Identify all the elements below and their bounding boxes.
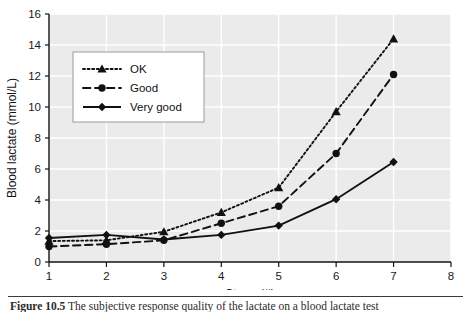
x-axis-tick-label: 5	[276, 270, 282, 282]
x-axis-tick-label: 6	[333, 270, 339, 282]
figure-caption: Figure 10.5 The subjective response qual…	[10, 300, 465, 312]
figure-number: Figure 10.5	[10, 300, 65, 312]
y-axis-tick-label: 4	[35, 194, 42, 206]
data-point-marker	[218, 220, 225, 227]
x-axis-tick-label: 8	[448, 270, 454, 282]
y-axis-tick-label: 12	[28, 70, 41, 82]
figure-container: 024681012141612345678Stage (#)Blood lact…	[0, 0, 471, 312]
y-axis-tick-label: 6	[35, 163, 41, 175]
x-axis-tick-label: 2	[103, 270, 109, 282]
chart-legend: OKGoodVery good	[73, 52, 204, 122]
y-axis-tick-label: 0	[35, 256, 41, 268]
data-point-marker	[103, 240, 110, 247]
x-axis-tick-label: 3	[161, 270, 167, 282]
caption-divider	[8, 296, 463, 297]
x-axis-tick-label: 4	[218, 270, 225, 282]
y-axis-tick-label: 10	[28, 101, 41, 113]
y-axis-tick-label: 8	[35, 132, 41, 144]
legend-item-label: OK	[130, 63, 147, 75]
figure-caption-text: The subjective response quality of the l…	[68, 300, 379, 312]
x-axis-title: Stage (#)	[225, 287, 274, 290]
y-axis-tick-label: 16	[28, 8, 41, 20]
x-axis-tick-label: 7	[390, 270, 396, 282]
data-point-marker	[390, 71, 397, 78]
data-point-marker	[332, 150, 339, 157]
legend-marker-sample	[98, 84, 105, 91]
data-point-marker	[45, 243, 52, 250]
legend-item-label: Very good	[130, 101, 182, 113]
y-axis-tick-label: 14	[28, 39, 41, 51]
data-point-marker	[275, 203, 282, 210]
y-axis-title: Blood lactate (mmol/L)	[5, 78, 19, 198]
y-axis-tick-label: 2	[35, 225, 41, 237]
blood-lactate-line-chart: 024681012141612345678Stage (#)Blood lact…	[0, 0, 471, 290]
x-axis-tick-label: 1	[46, 270, 52, 282]
legend-item-label: Good	[130, 82, 158, 94]
